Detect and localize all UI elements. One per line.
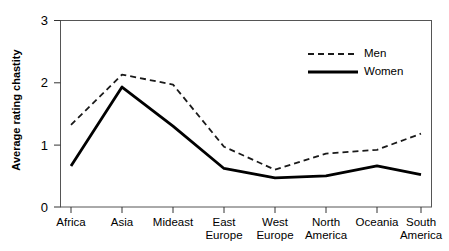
x-axis-ticks	[71, 207, 421, 213]
y-axis-title: Average rating chastity	[10, 20, 22, 200]
y-axis-tick-label-2: 2	[30, 75, 48, 90]
y-axis-tick-label-0: 0	[30, 200, 48, 215]
legend-label-men: Men	[364, 47, 386, 59]
chart-container: Average rating chastity 3 2 1 0	[0, 0, 449, 251]
series-line-women	[71, 87, 421, 178]
y-axis-tick-label-3: 3	[30, 13, 48, 28]
x-axis-tick-label-south-america: South America	[389, 216, 449, 241]
legend-label-women: Women	[364, 65, 403, 77]
y-axis-ticks	[54, 21, 61, 208]
chart-plot-area	[0, 0, 449, 251]
y-axis-tick-label-1: 1	[30, 138, 48, 153]
